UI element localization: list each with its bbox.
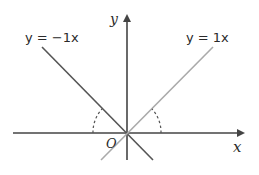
origin-label: O: [106, 136, 117, 151]
coordinate-diagram: y x O y = −1x y = 1x: [0, 0, 259, 175]
y-axis-label: y: [109, 11, 119, 27]
label-y-equals-x: y = 1x: [186, 30, 229, 45]
angle-arc-left: [93, 109, 102, 133]
line-y-equals-negative-x: [42, 47, 153, 160]
angle-arc-right: [152, 109, 161, 133]
line-y-equals-x: [101, 47, 213, 160]
x-axis-label: x: [233, 138, 242, 156]
label-y-equals-negative-x: y = −1x: [25, 30, 79, 45]
